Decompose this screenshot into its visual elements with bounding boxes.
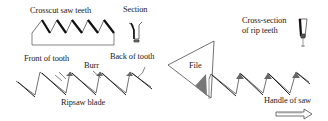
saw-teeth-diagram: Crosscut saw teeth Section Cross-section… — [0, 0, 328, 121]
burr-label: Burr — [84, 62, 99, 70]
file-label: File — [189, 62, 202, 70]
crosscut-section-drawing — [129, 22, 142, 42]
handle-of-saw-label: Handle of saw — [264, 97, 311, 105]
rip-section-label-line1: Cross-section — [242, 17, 286, 25]
front-of-tooth-label: Front of tooth — [24, 55, 69, 63]
crosscut-label: Crosscut saw teeth — [30, 7, 91, 15]
ripsaw-teeth-drawing — [16, 72, 310, 99]
right-arrow-icon — [276, 109, 312, 119]
ripsaw-blade-label: Ripsaw blade — [61, 99, 105, 107]
crosscut-teeth-drawing — [32, 20, 114, 45]
back-of-tooth-label: Back of tooth — [110, 53, 154, 61]
rip-section-label-line2: of rip teeth — [242, 27, 278, 35]
rip-section-drawing — [299, 19, 307, 47]
section-label: Section — [123, 6, 147, 14]
